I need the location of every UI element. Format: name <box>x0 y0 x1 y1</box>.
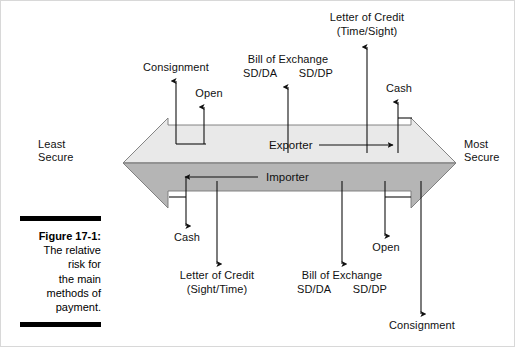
label-bottom-bill-of-exchange-sd-da: SD/DA <box>297 283 331 295</box>
label-top-bill-of-exchange-sd-dp: SD/DP <box>299 67 333 79</box>
caption-line-1: The relative <box>20 243 101 257</box>
label-bottom-bill-of-exchange-title: Bill of Exchange <box>302 269 382 281</box>
label-top-open: Open <box>195 87 222 100</box>
label-bottom-letter-of-credit: Letter of Credit (Sight/Time) <box>180 269 254 296</box>
label-top-bill-of-exchange: Bill of Exchange SD/DA SD/DP <box>243 53 333 80</box>
label-importer: Importer <box>266 171 309 183</box>
figure-caption: Figure 17-1: The relative risk for the m… <box>20 216 101 327</box>
label-bottom-bill-of-exchange-sd-dp: SD/DP <box>353 283 387 295</box>
label-bottom-letter-of-credit-sub: (Sight/Time) <box>187 283 248 295</box>
caption-rule-top <box>20 216 101 221</box>
label-top-letter-of-credit-sub: (Time/Sight) <box>337 25 398 37</box>
importer-band-shape <box>123 163 456 208</box>
label-bottom-open: Open <box>372 241 399 254</box>
label-top-bill-of-exchange-title: Bill of Exchange <box>248 53 328 65</box>
label-top-consignment: Consignment <box>143 61 209 74</box>
caption-line-5: payment. <box>20 300 101 314</box>
caption-text: Figure 17-1: The relative risk for the m… <box>20 229 101 314</box>
caption-rule-bottom <box>20 322 101 327</box>
label-top-letter-of-credit: Letter of Credit (Time/Sight) <box>330 11 404 38</box>
label-least-secure-line1: Least <box>38 138 65 150</box>
label-exporter: Exporter <box>269 139 312 151</box>
label-top-cash: Cash <box>386 82 412 95</box>
label-bottom-cash: Cash <box>174 231 200 244</box>
label-most-secure-line1: Most <box>464 138 488 150</box>
label-top-bill-of-exchange-sd-da: SD/DA <box>243 67 277 79</box>
caption-line-4: methods of <box>20 286 101 300</box>
figure-number: Figure 17-1: <box>20 229 101 243</box>
label-most-secure-line2: Secure <box>464 151 499 163</box>
caption-line-3: the main <box>20 272 101 286</box>
caption-line-2: risk for <box>20 257 101 271</box>
label-most-secure: Most Secure <box>464 138 499 164</box>
label-bottom-consignment: Consignment <box>389 319 455 332</box>
label-top-letter-of-credit-title: Letter of Credit <box>330 11 404 23</box>
label-bottom-bill-of-exchange: Bill of Exchange SD/DA SD/DP <box>297 269 387 296</box>
figure-page: Consignment Open Bill of Exchange SD/DA … <box>0 0 515 347</box>
label-bottom-letter-of-credit-title: Letter of Credit <box>180 269 254 281</box>
label-least-secure-line2: Secure <box>38 151 73 163</box>
label-least-secure: Least Secure <box>38 138 73 164</box>
